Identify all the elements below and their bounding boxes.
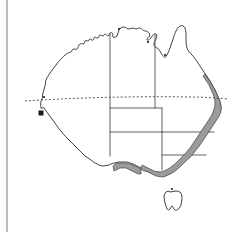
distribution-map-figure: Distribution map of Australia Species di… [0,0,246,232]
tasmania-coastline [164,191,182,210]
locality-marker-north-coast [147,41,149,43]
locality-marker-tasmania-north [171,188,173,190]
locality-marker-southwest [39,111,44,116]
locality-marker-top-end [118,28,120,30]
locality-marker-northwest-coast [43,96,45,98]
locality-marker-northeast-gulf [164,54,166,56]
mainland-australia [41,26,221,176]
australia-map [0,0,246,232]
tasmania [164,191,182,210]
mainland-coastline [41,26,221,176]
